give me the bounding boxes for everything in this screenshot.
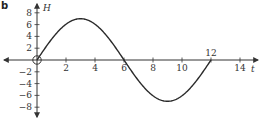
y-axis-label: H xyxy=(42,3,51,13)
x-tick-label: 10 xyxy=(176,63,188,73)
x-tick-label: 2 xyxy=(63,63,69,73)
sine-chart: Ht 24681012148642−2−4−6−8 xyxy=(0,0,260,119)
y-tick-label: 6 xyxy=(26,20,32,30)
x-axis-label: t xyxy=(251,64,255,74)
y-tick-label: −6 xyxy=(19,90,33,100)
x-tick-label: 12 xyxy=(205,48,216,58)
y-tick-label: −8 xyxy=(19,102,33,112)
x-tick-label: 8 xyxy=(150,63,156,73)
axes: Ht xyxy=(4,3,258,117)
y-tick-label: 4 xyxy=(26,31,32,41)
x-tick-label: 14 xyxy=(234,63,246,73)
y-tick-label: −2 xyxy=(19,67,32,77)
y-tick-label: 8 xyxy=(26,8,32,18)
y-tick-label: −4 xyxy=(19,79,33,89)
x-tick-label: 4 xyxy=(92,63,98,73)
y-tick-label: 2 xyxy=(26,43,32,53)
